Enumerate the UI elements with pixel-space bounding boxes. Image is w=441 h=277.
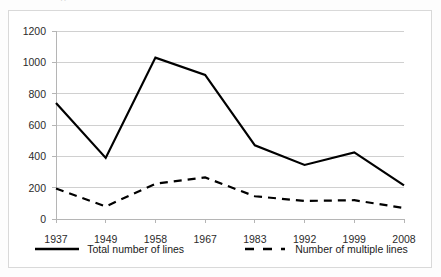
legend-item-total: Total number of lines: [34, 243, 184, 255]
plot-area: [56, 31, 404, 219]
legend-dashed-line-icon: [242, 244, 288, 254]
chart-frame: 020040060080010001200 193719491958196719…: [8, 10, 432, 268]
plot-area-wrapper: 020040060080010001200 193719491958196719…: [9, 11, 433, 227]
chart-screenshot: ·· 020040060080010001200 193719491958196…: [0, 0, 441, 277]
series-line-total: [56, 58, 404, 186]
y-axis-label-1200: 1200: [23, 25, 46, 37]
legend-label-total: Total number of lines: [87, 243, 184, 255]
clipped-top-text: ··: [60, 0, 67, 2]
y-axis-label-400: 400: [28, 150, 46, 162]
y-axis-tick-labels: 020040060080010001200: [9, 11, 53, 227]
line-chart-svg: [56, 31, 404, 219]
y-axis-label-600: 600: [28, 119, 46, 131]
legend-solid-line-icon: [34, 244, 80, 254]
series-line-multiple: [56, 177, 404, 208]
chart-legend: Total number of lines Number of multiple…: [9, 243, 433, 255]
y-axis-label-0: 0: [40, 213, 46, 225]
legend-label-multiple: Number of multiple lines: [295, 243, 408, 255]
y-axis-label-800: 800: [28, 88, 46, 100]
y-axis-label-200: 200: [28, 182, 46, 194]
legend-item-multiple: Number of multiple lines: [242, 243, 408, 255]
y-axis-label-1000: 1000: [23, 56, 46, 68]
